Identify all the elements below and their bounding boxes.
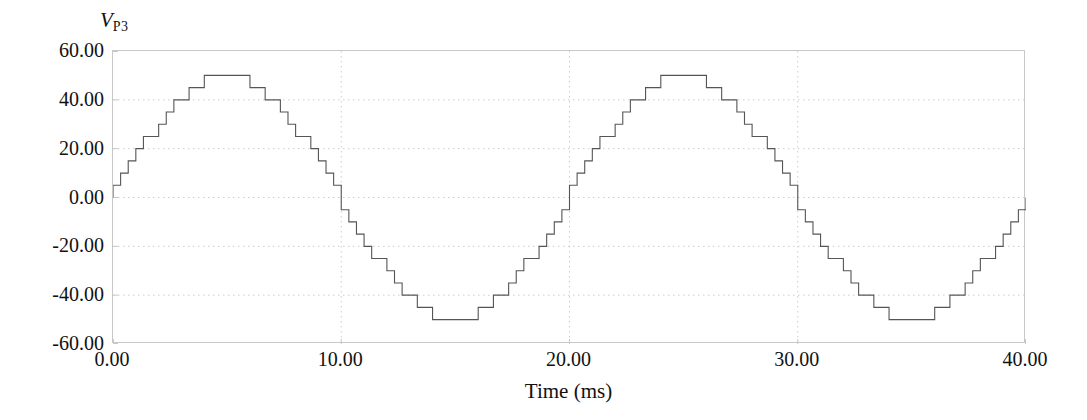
x-tick-label: 0.00 [52, 349, 172, 369]
y-tick-label: 40.00 [0, 89, 104, 109]
x-tick-label: 30.00 [737, 349, 857, 369]
y-tick-label: -40.00 [0, 284, 104, 304]
y-tick-label: 0.00 [0, 187, 104, 207]
x-axis-title: Time (ms) [112, 381, 1025, 402]
y-axis-title-subscript: P3 [113, 19, 128, 34]
x-tick-label: 40.00 [965, 349, 1085, 369]
x-tick-label: 20.00 [509, 349, 629, 369]
y-tick-label: -20.00 [0, 235, 104, 255]
y-tick-label: 60.00 [0, 40, 104, 60]
x-tick-label: 10.00 [280, 349, 400, 369]
y-axis-title: VP3 [100, 10, 128, 34]
y-axis-title-main: V [100, 8, 113, 32]
chart-figure: VP3 60.0040.0020.000.00-20.00-40.00-60.0… [0, 0, 1087, 420]
plot-canvas [113, 51, 1026, 344]
plot-area [112, 50, 1025, 343]
y-tick-label: 20.00 [0, 138, 104, 158]
